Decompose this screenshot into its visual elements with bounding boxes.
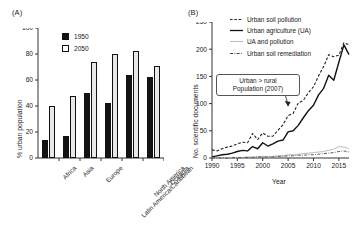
series-line-urban-soil-remediation [212, 151, 349, 158]
bar-2050-latin-america-caribbean [112, 54, 118, 158]
panel-a-y-tick-label: 20 [26, 128, 34, 135]
legend-item-2050: 2050 [62, 45, 89, 52]
panel-b-x-tick-label: 2005 [281, 162, 296, 169]
annotation-line-1: Urban > rural [219, 77, 297, 85]
panel-b-x-tick-label: 2010 [306, 162, 321, 169]
panel-b-x-tick-label: 2015 [332, 162, 347, 169]
legend-label-urban-soil-remediation: Urban soil remediation [247, 50, 311, 57]
legend-item-ua-and-pollution: UA and pollution [230, 38, 311, 45]
panel-b-label: (B) [188, 8, 198, 17]
bar-1950-europe [84, 93, 90, 158]
bar-2050-north-america [133, 51, 139, 158]
panel-b-y-tick-label: 50 [200, 127, 208, 134]
panel-b-line-chart: (B) No. scientific documents 05010015020… [182, 0, 364, 233]
legend-item-urban-soil-pollution: Urban soil pollution [230, 16, 311, 23]
panel-a-plot-area: 020406080100AfricaAsiaEuropeLatin Americ… [38, 28, 164, 158]
bar-1950-asia [63, 136, 69, 158]
bar-2050-oceania [154, 66, 160, 158]
bar-1950-africa [42, 140, 48, 158]
legend-swatch-2050 [62, 45, 69, 52]
panel-b-legend: Urban soil pollution Urban agriculture (… [230, 16, 311, 61]
panel-b-y-tick-label: 150 [196, 73, 207, 80]
bar-1950-oceania [147, 77, 153, 158]
panel-a-y-tick-label: 0 [29, 154, 33, 161]
panel-a-legend: 1950 2050 [62, 33, 89, 57]
legend-key-urban-soil-remediation [230, 50, 243, 57]
legend-label-2050: 2050 [74, 45, 89, 52]
annotation-urban-rural-crossover: Urban > rural Population (2007) [216, 74, 300, 96]
panel-b-x-tick-label: 1990 [205, 162, 220, 169]
annotation-line-2: Population (2007) [219, 85, 297, 93]
series-line-urban-agriculture-ua [212, 45, 349, 157]
panel-b-y-tick-label: 250 [196, 22, 207, 25]
bar-2050-africa [49, 106, 55, 158]
panel-a-y-tick-label: 40 [26, 102, 34, 109]
panel-b-x-tick-label: 2000 [255, 162, 270, 169]
panel-a-bar-chart: (A) % urban population 020406080100Afric… [0, 0, 182, 233]
legend-key-urban-soil-pollution [230, 16, 243, 23]
panel-a-label: (A) [12, 8, 22, 17]
annotation-arrow-head [285, 101, 291, 106]
legend-label-urban-agriculture: Urban agriculture (UA) [247, 27, 311, 34]
bar-2050-europe [91, 62, 97, 158]
legend-item-urban-agriculture: Urban agriculture (UA) [230, 27, 311, 34]
panel-b-y-tick-label: 100 [196, 100, 207, 107]
panel-b-x-axis-title: Year [272, 178, 286, 185]
legend-swatch-1950 [62, 33, 69, 40]
panel-b-x-tick-label: 1995 [230, 162, 245, 169]
legend-label-1950: 1950 [74, 33, 89, 40]
legend-item-1950: 1950 [62, 33, 89, 40]
bar-2050-asia [70, 96, 76, 158]
figure-container: (A) % urban population 020406080100Afric… [0, 0, 364, 233]
panel-b-y-tick-label: 0 [203, 154, 207, 161]
panel-b-y-tick-label: 200 [196, 46, 207, 53]
panel-a-y-tick-label: 60 [26, 76, 34, 83]
bar-1950-north-america [126, 75, 132, 158]
panel-a-y-tick-label: 80 [26, 50, 34, 57]
bar-1950-latin-america-caribbean [105, 103, 111, 158]
legend-label-ua-and-pollution: UA and pollution [247, 38, 294, 45]
legend-label-urban-soil-pollution: Urban soil pollution [247, 16, 301, 23]
legend-item-urban-soil-remediation: Urban soil remediation [230, 50, 311, 57]
panel-a-y-tick-label: 100 [22, 28, 33, 31]
legend-key-urban-agriculture [230, 27, 243, 34]
legend-key-ua-and-pollution [230, 38, 243, 45]
